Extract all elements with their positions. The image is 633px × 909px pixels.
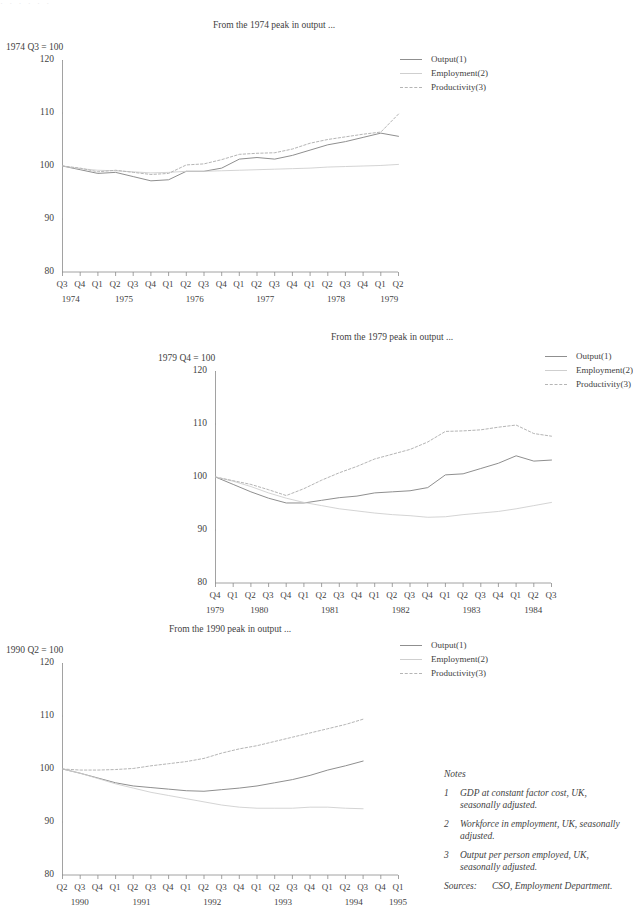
chart-legend: Output(1)Employment(2)Productivity(3) [545,349,633,391]
x-quarter-label: Q3 [546,590,557,600]
chart-title: From the 1990 peak in output ... [169,624,291,634]
note-item: 1 GDP at constant factor cost, UK, seaso… [444,787,624,812]
x-year-label: 1975 [115,294,133,304]
note-number: 3 [444,849,460,874]
legend-item: Productivity(3) [400,666,488,680]
series-line [216,425,552,495]
legend-label: Productivity(3) [431,82,486,92]
x-quarter-label: Q4 [233,882,244,892]
x-quarter-label: Q4 [357,279,368,289]
note-item: 3 Output per person employed, UK, season… [444,849,624,874]
legend-label: Productivity(3) [431,668,486,678]
y-tick-label: 90 [28,213,54,223]
x-quarter-label: Q3 [269,279,280,289]
x-quarter-label: Q1 [439,590,450,600]
plot-area [62,663,406,885]
x-year-label: 1991 [133,897,151,907]
x-year-label: 1978 [327,294,345,304]
legend-label: Employment(2) [431,654,488,664]
x-quarter-label: Q2 [528,590,539,600]
note-text: GDP at constant factor cost, UK, seasona… [460,787,624,812]
y-axis-caption: 1979 Q4 = 100 [158,353,215,363]
legend-item: Output(1) [400,52,488,66]
x-quarter-label: Q2 [127,882,138,892]
plot-area [215,371,559,593]
x-year-label: 1976 [186,294,204,304]
x-quarter-label: Q3 [263,590,274,600]
legend-item: Output(1) [545,349,633,363]
notes-block: Notes 1 GDP at constant factor cost, UK,… [444,768,624,892]
legend-item: Employment(2) [545,363,633,377]
y-tick-label: 120 [28,657,54,667]
x-year-label: 1977 [256,294,274,304]
plot-area [62,60,406,282]
legend-item: Productivity(3) [400,80,488,94]
x-quarter-label: Q1 [375,279,386,289]
y-tick-label: 100 [181,471,207,481]
x-quarter-label: Q2 [110,279,121,289]
note-text: Output per person employed, UK, seasonal… [460,849,624,874]
x-quarter-label: Q1 [180,882,191,892]
x-year-label: 1993 [274,897,292,907]
y-tick-label: 80 [28,869,54,879]
x-quarter-label: Q2 [386,590,397,600]
x-quarter-label: Q1 [393,882,404,892]
x-quarter-label: Q3 [57,279,68,289]
x-year-label: 1982 [392,605,410,615]
chart-legend: Output(1)Employment(2)Productivity(3) [400,52,488,94]
legend-label: Output(1) [431,54,467,64]
chart-legend: Output(1)Employment(2)Productivity(3) [400,638,488,680]
legend-line-icon [545,380,567,388]
x-year-label: 1994 [345,897,363,907]
sources-label: Sources: [444,880,492,893]
legend-line-icon [400,55,422,63]
notes-heading: Notes [444,768,624,781]
legend-label: Output(1) [431,640,467,650]
x-year-label: 1981 [321,605,339,615]
x-quarter-label: Q4 [375,882,386,892]
x-quarter-label: Q4 [286,279,297,289]
y-tick-label: 80 [28,266,54,276]
legend-line-icon [400,69,422,77]
series-line [63,761,364,791]
x-quarter-label: Q1 [251,882,262,892]
note-item: 2 Workforce in employment, UK, seasonall… [444,818,624,843]
series-line [63,164,399,172]
x-quarter-label: Q1 [510,590,521,600]
legend-item: Productivity(3) [545,377,633,391]
y-tick-label: 100 [28,763,54,773]
x-year-label: 1990 [71,897,89,907]
x-quarter-label: Q2 [198,882,209,892]
x-quarter-label: Q1 [92,279,103,289]
x-quarter-label: Q2 [457,590,468,600]
legend-item: Output(1) [400,638,488,652]
y-tick-label: 90 [28,816,54,826]
x-quarter-label: Q3 [127,279,138,289]
x-quarter-label: Q3 [404,590,415,600]
x-quarter-label: Q1 [298,590,309,600]
legend-line-icon [400,83,422,91]
x-quarter-label: Q4 [304,882,315,892]
x-quarter-label: Q3 [145,882,156,892]
sources-item: Sources: CSO, Employment Department. [444,880,624,893]
x-quarter-label: Q2 [269,882,280,892]
x-quarter-label: Q1 [304,279,315,289]
x-quarter-label: Q3 [286,882,297,892]
y-tick-label: 110 [181,418,207,428]
x-quarter-label: Q4 [92,882,103,892]
x-quarter-label: Q4 [74,279,85,289]
x-quarter-label: Q3 [475,590,486,600]
chart-title: From the 1974 peak in output ... [213,20,335,30]
legend-line-icon [400,669,422,677]
x-quarter-label: Q4 [492,590,503,600]
y-tick-label: 120 [28,54,54,64]
x-quarter-label: Q2 [339,882,350,892]
legend-item: Employment(2) [400,652,488,666]
x-quarter-label: Q4 [351,590,362,600]
chart-title: From the 1979 peak in output ... [331,332,453,342]
x-quarter-label: Q4 [280,590,291,600]
x-year-label: 1984 [524,605,542,615]
x-quarter-label: Q1 [110,882,121,892]
x-quarter-label: Q1 [369,590,380,600]
x-quarter-label: Q3 [357,882,368,892]
